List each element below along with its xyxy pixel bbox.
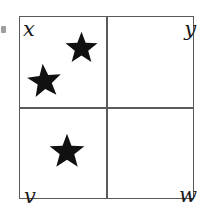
vertex-label-w: w xyxy=(179,185,197,206)
star-icon xyxy=(64,31,99,66)
grid-horizontal-divider xyxy=(19,107,194,109)
star-icon xyxy=(24,61,65,102)
figure-canvas: x y v w xyxy=(0,0,205,213)
vertex-label-x: x xyxy=(23,19,35,40)
vertex-label-y: y xyxy=(184,19,196,40)
star-icon xyxy=(48,133,86,171)
vertex-label-v: v xyxy=(24,186,36,207)
edge-artifact-mark xyxy=(1,26,6,33)
